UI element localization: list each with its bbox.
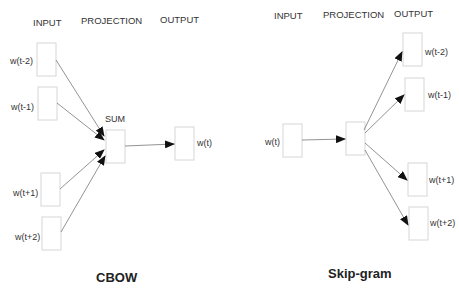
skipgram-header-projection: PROJECTION: [323, 9, 384, 20]
cbow-input-label-4: w(t+2): [14, 232, 40, 242]
skipgram-header-output: OUTPUT: [394, 8, 433, 19]
skipgram-diagram: INPUT PROJECTION OUTPUT w(t) w(t-2) w(t-…: [264, 8, 455, 281]
cbow-input-node-4: [42, 217, 61, 250]
cbow-title: CBOW: [96, 270, 138, 285]
cbow-edge-out: [125, 144, 174, 146]
cbow-projection-node: [106, 130, 125, 163]
skipgram-input-label: w(t): [264, 137, 280, 147]
cbow-output-label: w(t): [196, 138, 212, 148]
skipgram-output-label-4: w(t+2): [429, 218, 455, 228]
cbow-edge-2: [57, 103, 104, 140]
skipgram-header-input: INPUT: [274, 10, 303, 21]
cbow-edge-4: [61, 156, 105, 232]
skipgram-edge-2: [365, 95, 404, 133]
skipgram-title: Skip-gram: [328, 266, 392, 281]
cbow-output-node: [175, 127, 194, 160]
skipgram-output-node-4: [409, 207, 428, 240]
cbow-input-node-3: [41, 173, 60, 206]
skipgram-output-node-3: [408, 163, 427, 196]
cbow-header-output: OUTPUT: [160, 14, 199, 25]
cbow-header-input: INPUT: [33, 17, 62, 28]
skipgram-output-node-2: [405, 78, 424, 111]
cbow-header-projection: PROJECTION: [81, 15, 142, 26]
skipgram-output-label-2: w(t-1): [427, 90, 451, 100]
cbow-edge-1: [56, 60, 104, 136]
cbow-input-node-2: [38, 87, 57, 120]
cbow-projection-label: SUM: [105, 114, 125, 124]
cbow-input-node-1: [37, 43, 56, 76]
skipgram-output-label-3: w(t+1): [428, 175, 454, 185]
cbow-input-label-3: w(t+1): [12, 188, 38, 198]
skipgram-edge-1: [364, 52, 402, 130]
cbow-input-label-2: w(t-1): [10, 102, 34, 112]
skipgram-edge-4: [365, 150, 408, 225]
cbow-input-label-1: w(t-2): [9, 56, 33, 66]
skipgram-output-node-1: [403, 33, 422, 66]
skipgram-input-node: [283, 124, 302, 157]
skipgram-output-label-1: w(t-2): [424, 47, 448, 57]
skipgram-projection-node: [346, 122, 365, 155]
skipgram-edge-in: [302, 139, 345, 140]
cbow-diagram: INPUT PROJECTION OUTPUT w(t-2) w(t-1) w(…: [9, 14, 212, 285]
